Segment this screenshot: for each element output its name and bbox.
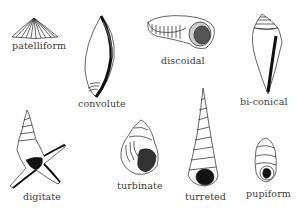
label-digitate: digitate	[23, 191, 61, 202]
label-turbinate: turbinate	[117, 180, 163, 191]
label-patelliform: patelliform	[12, 40, 66, 51]
bi-conical-shell-icon	[252, 14, 282, 94]
patelliform-shell-icon	[12, 18, 58, 39]
label-turreted: turreted	[185, 191, 226, 202]
label-discoidal: discoidal	[161, 55, 205, 66]
label-pupiform: pupiform	[246, 188, 291, 199]
convolute-shell-icon	[85, 16, 114, 97]
pupiform-shell-icon	[255, 138, 276, 182]
digitate-shell-icon	[10, 110, 66, 188]
turbinate-shell-icon	[121, 120, 158, 174]
shell-shapes-figure: patelliform convolute discoidal bi-conic…	[0, 0, 305, 213]
label-convolute: convolute	[78, 98, 126, 109]
discoidal-shell-icon	[148, 16, 215, 49]
label-bi-conical: bi-conical	[240, 96, 288, 107]
turreted-shell-icon	[188, 88, 218, 186]
